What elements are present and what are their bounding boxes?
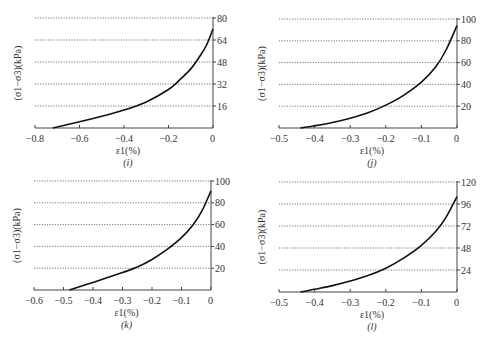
- panel-caption: (k): [121, 319, 133, 331]
- y-tick-label: 24: [461, 265, 471, 276]
- x-tick-label: −0.2: [159, 133, 177, 144]
- chart-panel-j: 204060801000−0.5−0.4−0.3−0.2−0.1(σ1−σ3)(…: [256, 14, 476, 170]
- y-tick-label: 120: [461, 177, 476, 188]
- y-tick-label: 60: [461, 57, 471, 68]
- y-tick-label: 72: [461, 221, 471, 232]
- y-tick-label: 16: [217, 101, 227, 112]
- chart-panel-k: 204060801000−0.6−0.5−0.4−0.3−0.2−0.1(σ1−…: [11, 176, 230, 332]
- y-tick-label: 48: [217, 57, 227, 68]
- x-axis-label: ε1(%): [114, 307, 138, 319]
- x-tick-label: −0.4: [306, 133, 324, 144]
- x-tick-label: −0.2: [143, 295, 161, 306]
- x-axis-label: ε1(%): [360, 145, 384, 157]
- x-tick-label: −0.4: [306, 297, 324, 308]
- x-tick-label: −0.5: [54, 295, 72, 306]
- panel-caption: (i): [123, 157, 133, 169]
- y-tick-label: 40: [461, 79, 471, 90]
- y-tick-label: 100: [215, 176, 230, 187]
- x-tick-label: −0.5: [270, 133, 288, 144]
- x-tick-label: −0.1: [412, 297, 430, 308]
- panel-caption: (j): [367, 157, 377, 169]
- y-tick-label: 48: [461, 243, 471, 254]
- x-tick-label: −0.1: [172, 295, 190, 306]
- x-axis-label: ε1(%): [116, 145, 140, 157]
- chart-panel-l: 244872961200−0.5−0.4−0.3−0.2−0.1(σ1−σ3)(…: [256, 177, 476, 334]
- y-tick-label: 60: [215, 219, 225, 230]
- y-axis-label: (σ1−σ3)(kPa): [256, 210, 268, 265]
- x-tick-label: −0.1: [412, 133, 430, 144]
- y-tick-label: 80: [461, 35, 471, 46]
- x-tick-label: −0.2: [377, 297, 395, 308]
- y-tick-label: 64: [217, 35, 227, 46]
- y-axis-label: (σ1−σ3)(kPa): [12, 46, 24, 101]
- x-tick-label: −0.3: [341, 297, 359, 308]
- y-tick-label: 32: [217, 79, 227, 90]
- x-tick-label: 0: [454, 133, 459, 144]
- x-tick-label: 0: [454, 297, 459, 308]
- stress-strain-curve: [300, 197, 457, 292]
- y-tick-label: 40: [215, 241, 225, 252]
- y-tick-label: 20: [215, 263, 225, 274]
- panel-caption: (l): [367, 321, 377, 333]
- x-tick-label: 0: [210, 133, 215, 144]
- x-tick-label: −0.4: [84, 295, 102, 306]
- y-axis-label: (σ1−σ3)(kPa): [11, 208, 23, 263]
- x-tick-label: −0.6: [25, 295, 43, 306]
- y-tick-label: 96: [461, 199, 471, 210]
- stress-strain-curve: [53, 29, 213, 128]
- x-tick-label: −0.4: [115, 133, 133, 144]
- x-tick-label: −0.2: [377, 133, 395, 144]
- x-tick-label: −0.3: [113, 295, 131, 306]
- x-tick-label: 0: [208, 295, 213, 306]
- y-axis-label: (σ1−σ3)(kPa): [256, 46, 268, 101]
- y-tick-label: 80: [215, 197, 225, 208]
- chart-panel-i: 16324864800−0.8−0.6−0.4−0.2(σ1−σ3)(kPa)ε…: [12, 13, 227, 170]
- x-tick-label: −0.8: [26, 133, 44, 144]
- y-tick-label: 100: [461, 14, 476, 25]
- x-axis-label: ε1(%): [360, 309, 384, 321]
- x-tick-label: −0.6: [70, 133, 88, 144]
- y-tick-label: 20: [461, 101, 471, 112]
- y-tick-label: 80: [217, 13, 227, 24]
- x-tick-label: −0.3: [341, 133, 359, 144]
- x-tick-label: −0.5: [270, 297, 288, 308]
- stress-strain-curve: [69, 191, 211, 290]
- figure-canvas: 16324864800−0.8−0.6−0.4−0.2(σ1−σ3)(kPa)ε…: [0, 0, 487, 340]
